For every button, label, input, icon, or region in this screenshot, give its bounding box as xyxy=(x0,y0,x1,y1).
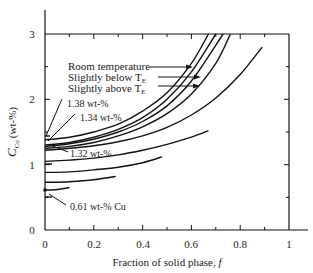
x-tick-label: 0.6 xyxy=(184,238,198,250)
arrow-head-icon xyxy=(194,75,201,80)
annotation-arrow xyxy=(49,194,66,205)
y-tick-label: 3 xyxy=(29,28,35,40)
data-curve xyxy=(45,188,69,191)
annotation-1-34: 1.34 wt-% xyxy=(80,112,122,123)
chart: 0 0.2 0.4 0.6 0.8 1 0 1 2 3 Fraction of … xyxy=(0,0,313,273)
x-tick-label: 1 xyxy=(286,238,292,250)
data-point-marker xyxy=(43,188,47,192)
x-tick-labels: 0 0.2 0.4 0.6 0.8 1 xyxy=(42,238,292,250)
data-curve xyxy=(45,157,162,173)
annotation-1-32: 1.32 wt-% xyxy=(70,148,112,159)
data-curves xyxy=(45,34,262,190)
annotation-1-38: 1.38 wt-% xyxy=(67,98,109,109)
x-axis-title: Fraction of solid phase, f xyxy=(112,256,223,268)
data-curve xyxy=(45,176,116,182)
y-tick-label: 1 xyxy=(29,159,35,171)
annotation-0-61: 0.61 wt-% Cu xyxy=(70,201,126,212)
x-tick-label: 0.8 xyxy=(233,238,247,250)
x-tick-label: 0.4 xyxy=(136,238,150,250)
legend-slightly-above: Slightly above TE xyxy=(68,82,145,96)
y-tick-labels: 0 1 2 3 xyxy=(29,28,35,236)
y-axis-title: CCu(wt-%) xyxy=(4,107,21,157)
annotation-arrow xyxy=(46,99,62,136)
x-tick-label: 0 xyxy=(42,238,48,250)
x-tick-label: 0.2 xyxy=(87,238,101,250)
y-tick-label: 2 xyxy=(29,93,35,105)
y-tick-label: 0 xyxy=(29,224,35,236)
